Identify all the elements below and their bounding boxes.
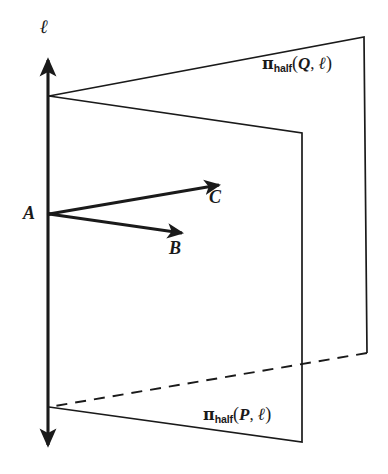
pi-subscript-p: half [215,413,233,425]
vector-B-label: B [169,239,181,257]
half-plane-P-label: πhalf(P, ℓ) [203,405,271,425]
geometry-diagram: ℓ A C B πhalf(Q, ℓ) πhalf(P, ℓ) [0,0,388,474]
vector-B-shape [49,214,182,233]
pi-symbol-p: π [203,405,215,424]
point-A-label: A [23,204,35,222]
vector-B-stroke [49,214,182,233]
plane-arg-q: Q [298,54,310,73]
line-ell-label: ℓ [40,17,48,36]
half-plane-Q-solid-edges [49,37,367,353]
plane-arg-p: P [239,405,249,424]
comma-q: , [310,54,319,73]
close-paren-p: ) [265,404,271,424]
half-plane-P-shape [49,96,302,442]
pi-subscript-q: half [274,62,292,74]
close-paren-q: ) [326,53,332,73]
plane-line-q: ℓ [319,53,326,73]
half-plane-Q-hidden-edge [49,353,367,407]
half-plane-Q-label: πhalf(Q, ℓ) [262,54,332,74]
vector-C-shape [49,185,219,214]
half-plane-P-edges [49,96,302,442]
vector-C-label: C [209,188,221,206]
comma-p: , [249,405,258,424]
vector-C-stroke [49,185,219,214]
pi-symbol-q: π [262,54,274,73]
